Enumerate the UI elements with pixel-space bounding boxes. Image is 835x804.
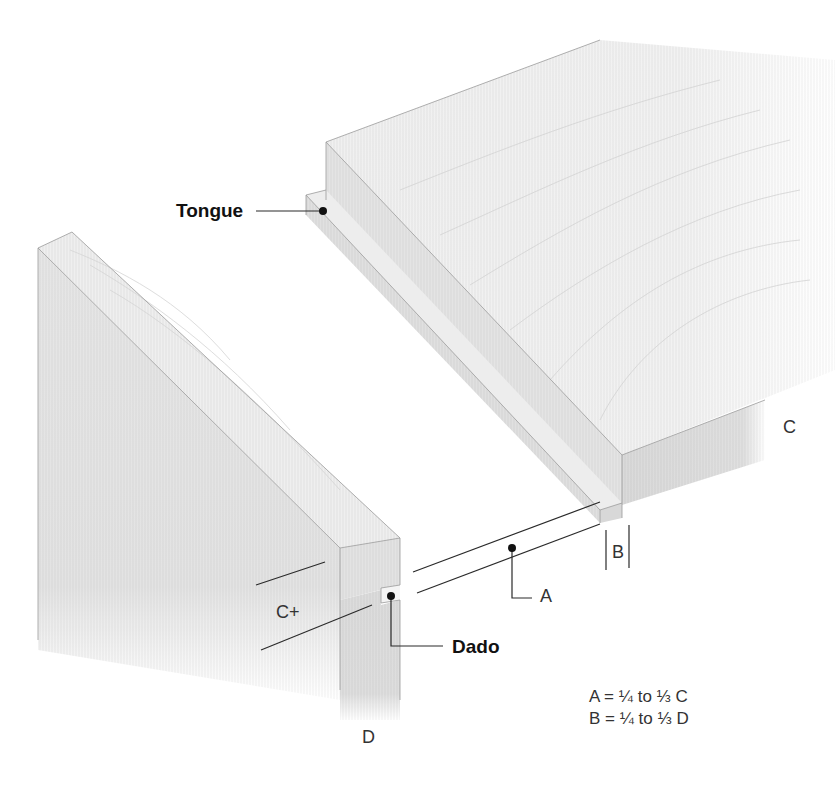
label-d: D [362, 728, 375, 746]
label-c-plus: C+ [276, 603, 300, 621]
formula-b: B = ¼ to ⅓ D [589, 708, 689, 730]
dado-dot [387, 592, 395, 600]
label-c: C [783, 418, 796, 436]
label-tongue: Tongue [176, 201, 243, 220]
tongue-board [306, 40, 835, 523]
formula-block: A = ¼ to ⅓ C B = ¼ to ⅓ D [589, 686, 689, 730]
a-dot [508, 544, 516, 552]
dimension-a-lower [417, 524, 600, 593]
label-b: B [612, 543, 624, 561]
formula-a: A = ¼ to ⅓ C [589, 686, 689, 708]
dado-board [38, 232, 400, 720]
joint-diagram: Tongue Dado A B C C+ D A = ¼ to ⅓ C B = … [0, 0, 835, 804]
illustration [0, 0, 835, 804]
label-dado: Dado [452, 637, 500, 656]
tongue-dot [319, 207, 327, 215]
label-a: A [540, 587, 552, 605]
dimension-a-upper [413, 502, 600, 572]
